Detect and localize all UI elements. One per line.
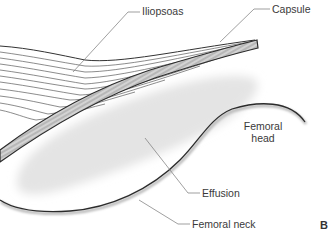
label-femoral-head: Femoral head	[240, 120, 286, 144]
label-effusion: Effusion	[202, 187, 240, 199]
label-iliopsoas: Iliopsoas	[142, 5, 183, 17]
leader-femoral-neck	[139, 200, 190, 224]
panel-letter: B	[320, 219, 328, 231]
label-capsule: Capsule	[272, 3, 311, 15]
label-femoral-head-line1: Femoral	[240, 120, 286, 132]
leader-capsule	[220, 9, 270, 42]
diagram-drawing	[0, 0, 328, 233]
label-femoral-neck: Femoral neck	[192, 218, 256, 230]
label-femoral-head-line2: head	[240, 132, 286, 144]
hip-ultrasound-diagram: Iliopsoas Capsule Femoral head Effusion …	[0, 0, 328, 233]
effusion-region	[17, 76, 257, 194]
